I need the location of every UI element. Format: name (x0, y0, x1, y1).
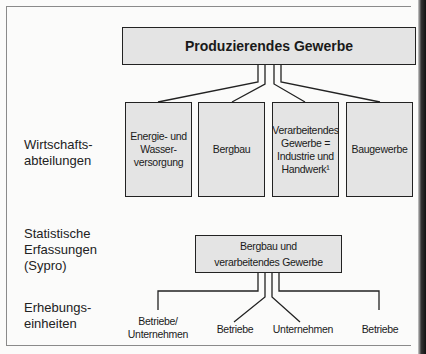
unit-text: Betriebe (210, 323, 260, 336)
unit-text: Unternehmen (122, 328, 194, 341)
row-label-statistische-erfassungen: Statistische Erfassungen (Sypro) (24, 226, 97, 274)
division-text: Industrie und (272, 150, 338, 163)
row-label-line: einheiten (24, 316, 91, 332)
unit-betriebe-2: Betriebe (355, 323, 405, 336)
unit-unternehmen: Unternehmen (272, 323, 334, 336)
division-box-energie: Energie- und Wasser- versorgung (125, 102, 192, 197)
division-box-baugewerbe: Baugewerbe (346, 102, 413, 197)
row-label-line: abteilungen (24, 153, 93, 169)
unit-betriebe: Betriebe (210, 323, 260, 336)
stat-box-text: Bergbau und (214, 238, 322, 254)
division-box-verarbeitendes-gewerbe: Verarbeitendes Gewerbe = Industrie und H… (272, 102, 339, 197)
division-text: Energie- und (130, 130, 187, 143)
division-text: Baugewerbe (352, 143, 408, 156)
unit-text: Betriebe/ (122, 315, 194, 328)
row-label-line: Wirtschafts- (24, 137, 93, 153)
top-box-produzierendes-gewerbe: Produzierendes Gewerbe (122, 27, 416, 65)
row-label-line: Erhebungs- (24, 300, 91, 316)
division-text: versorgung (130, 156, 187, 169)
row-label-line: Erfassungen (24, 242, 97, 258)
stat-box-bergbau-verarbeitendes: Bergbau und verarbeitendes Gewerbe (195, 235, 342, 273)
division-text: Bergbau (213, 143, 251, 156)
division-box-bergbau: Bergbau (198, 102, 265, 197)
unit-text: Unternehmen (272, 323, 334, 336)
top-box-label: Produzierendes Gewerbe (185, 38, 353, 54)
division-text: Handwerk¹ (272, 163, 338, 176)
division-text: Verarbeitendes (272, 124, 338, 137)
row-label-line: Statistische (24, 226, 97, 242)
row-label-erhebungseinheiten: Erhebungs- einheiten (24, 300, 91, 332)
unit-text: Betriebe (355, 323, 405, 336)
division-text: Gewerbe = (272, 137, 338, 150)
division-text: Wasser- (130, 143, 187, 156)
row-label-line: (Sypro) (24, 258, 97, 274)
stat-box-text: verarbeitendes Gewerbe (214, 254, 322, 270)
row-label-wirtschaftsabteilungen: Wirtschafts- abteilungen (24, 137, 93, 169)
unit-betriebe-unternehmen: Betriebe/ Unternehmen (122, 315, 194, 341)
